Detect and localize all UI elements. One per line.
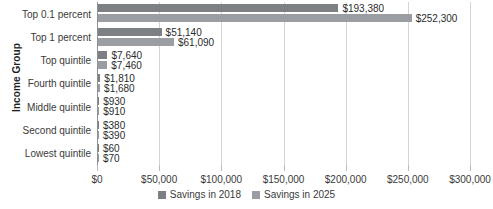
x-tickmark bbox=[159, 165, 160, 171]
x-tickmark bbox=[408, 165, 409, 171]
bar-group: $61,090 bbox=[98, 38, 174, 46]
bar-row: Top 0.1 percent$193,380$252,300 bbox=[97, 2, 470, 25]
bar-group: $390 bbox=[98, 131, 99, 139]
x-tickmark bbox=[221, 165, 222, 171]
bar-row: Lowest quintile$60$70 bbox=[97, 142, 470, 165]
bar-value-label: $390 bbox=[103, 129, 125, 140]
bar-value-label: $252,300 bbox=[416, 13, 458, 24]
x-tickmark bbox=[470, 165, 471, 171]
legend-label: Savings in 2018 bbox=[170, 189, 241, 200]
x-tickmark bbox=[346, 165, 347, 171]
y-axis-title: Income Group bbox=[11, 33, 22, 123]
bar bbox=[98, 154, 99, 162]
x-tick-label: $300,000 bbox=[449, 174, 491, 185]
bar bbox=[98, 14, 412, 22]
x-tick-label: $200,000 bbox=[325, 174, 367, 185]
legend-swatch-icon bbox=[158, 191, 166, 199]
bar-value-label: $910 bbox=[103, 106, 125, 117]
x-tick-label: $0 bbox=[91, 174, 102, 185]
bar-row: Top quintile$7,640$7,460 bbox=[97, 49, 470, 72]
category-label: Middle quintile bbox=[27, 101, 91, 112]
bar-value-label: $70 bbox=[103, 153, 120, 164]
bar-group: $1,810 bbox=[98, 74, 100, 82]
category-label: Top 0.1 percent bbox=[22, 8, 91, 19]
bar bbox=[98, 84, 100, 92]
bar bbox=[98, 74, 100, 82]
bar-value-label: $61,090 bbox=[178, 36, 214, 47]
category-label: Fourth quintile bbox=[28, 78, 91, 89]
bar-group: $51,140 bbox=[98, 28, 162, 36]
gridline bbox=[470, 2, 471, 165]
bar bbox=[98, 28, 162, 36]
x-tickmark bbox=[97, 165, 98, 171]
bar-group: $193,380 bbox=[98, 4, 338, 12]
legend-item[interactable]: Savings in 2025 bbox=[252, 189, 335, 200]
bar bbox=[98, 4, 338, 12]
bar-value-label: $7,460 bbox=[111, 59, 142, 70]
bar-row: Second quintile$380$390 bbox=[97, 118, 470, 141]
category-label: Top quintile bbox=[40, 55, 91, 66]
bar-group: $7,640 bbox=[98, 51, 107, 59]
y-axis-line bbox=[97, 2, 98, 165]
legend-swatch-icon bbox=[252, 191, 260, 199]
bar bbox=[98, 38, 174, 46]
bar bbox=[98, 121, 99, 129]
bar-group: $60 bbox=[98, 144, 99, 152]
category-label: Lowest quintile bbox=[25, 148, 91, 159]
bar bbox=[98, 144, 99, 152]
category-label: Second quintile bbox=[23, 125, 91, 136]
bar-value-label: $1,680 bbox=[104, 83, 135, 94]
bar-group: $7,460 bbox=[98, 61, 107, 69]
chart-legend: Savings in 2018Savings in 2025 bbox=[0, 189, 493, 200]
bar bbox=[98, 107, 99, 115]
bar-group: $910 bbox=[98, 107, 99, 115]
x-tick-label: $250,000 bbox=[387, 174, 429, 185]
bar bbox=[98, 51, 107, 59]
bar bbox=[98, 97, 99, 105]
x-tick-label: $100,000 bbox=[200, 174, 242, 185]
bar-row: Middle quintile$930$910 bbox=[97, 95, 470, 118]
bar-value-label: $193,380 bbox=[342, 3, 384, 14]
bar-group: $930 bbox=[98, 97, 99, 105]
bar-group: $70 bbox=[98, 154, 99, 162]
bar bbox=[98, 61, 107, 69]
bar-group: $1,680 bbox=[98, 84, 100, 92]
bar-group: $380 bbox=[98, 121, 99, 129]
legend-label: Savings in 2025 bbox=[264, 189, 335, 200]
bar bbox=[98, 131, 99, 139]
bar-row: Fourth quintile$1,810$1,680 bbox=[97, 72, 470, 95]
x-tick-label: $50,000 bbox=[141, 174, 177, 185]
bar-row: Top 1 percent$51,140$61,090 bbox=[97, 25, 470, 48]
bar-chart: Income Group Top 0.1 percent$193,380$252… bbox=[0, 0, 493, 209]
x-tick-label: $150,000 bbox=[263, 174, 305, 185]
plot-area: Top 0.1 percent$193,380$252,300Top 1 per… bbox=[97, 2, 470, 165]
legend-item[interactable]: Savings in 2018 bbox=[158, 189, 241, 200]
x-tickmark bbox=[284, 165, 285, 171]
bar-group: $252,300 bbox=[98, 14, 412, 22]
category-label: Top 1 percent bbox=[30, 31, 91, 42]
